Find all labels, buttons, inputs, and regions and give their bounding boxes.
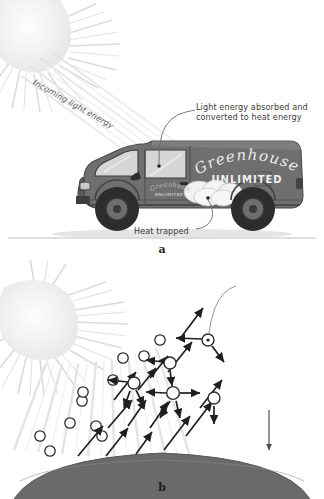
sun-icon	[0, 260, 128, 396]
van-door-block: UNLIMITED	[155, 192, 184, 197]
panel-letter-b: b	[0, 481, 324, 494]
panel-b-atmosphere: Carbon dioxide and other greenhouse gase…	[0, 260, 324, 499]
panel-letter-a: a	[0, 243, 324, 256]
callout-leader-line-icon	[209, 286, 236, 333]
panel-a-car-analogy: Greenhouses UNLIMITED Greenhouses UNLIMI…	[0, 0, 324, 260]
panel-b-artwork	[0, 260, 324, 499]
greenhouse-effect-figure: Greenhouses UNLIMITED Greenhouses UNLIMI…	[0, 0, 324, 499]
van-branding: Greenhouses UNLIMITED Greenhouses UNLIMI…	[0, 0, 324, 260]
van-door-script: Greenhouses	[0, 0, 192, 193]
van-brand-block: UNLIMITED	[211, 174, 282, 185]
label-light-energy-absorbed: Light energy absorbed and converted to h…	[196, 103, 308, 122]
label-heat-trapped: Heat trapped	[134, 227, 189, 237]
